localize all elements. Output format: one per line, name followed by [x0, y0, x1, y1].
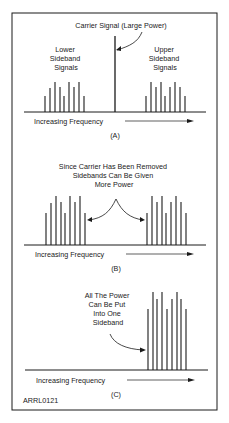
- single-sideband-label: All The Power Can Be Put Into One Sideba…: [85, 291, 132, 327]
- lower-sideband-bars: [45, 82, 84, 112]
- panel-a: Carrier Signal (Large Power) Lower Sideb…: [24, 21, 206, 140]
- power-arrow: [110, 334, 143, 350]
- ssb-spectrum-diagram: Carrier Signal (Large Power) Lower Sideb…: [0, 0, 229, 423]
- panel-c: All The Power Can Be Put Into One Sideba…: [23, 291, 208, 405]
- panel-caption: (A): [110, 131, 120, 140]
- axis-label: Increasing Frequency: [35, 250, 105, 259]
- panel-caption: (B): [111, 264, 121, 273]
- arrowhead-icon: [140, 348, 146, 353]
- figure-id: ARRL0121: [23, 396, 58, 405]
- carrier-label: Carrier Signal (Large Power): [75, 21, 166, 30]
- lower-sideband-label: Lower Sideband Signals: [50, 45, 82, 72]
- power-arrow-left: [89, 199, 116, 220]
- panel-b: Since Carrier Has Been Removed Sidebands…: [24, 162, 206, 273]
- carrier-removed-label: Since Carrier Has Been Removed Sidebands…: [59, 162, 169, 189]
- upper-sideband-bars: [147, 196, 186, 245]
- arrowhead-icon: [87, 217, 92, 222]
- lower-sideband-bars: [46, 196, 85, 245]
- arrowhead-icon: [116, 46, 121, 51]
- arrowhead-icon: [187, 252, 194, 256]
- single-sideband-bars: [148, 292, 186, 370]
- upper-sideband-bars: [146, 82, 185, 112]
- axis-label: Increasing Frequency: [36, 376, 106, 385]
- arrowhead-icon: [188, 378, 195, 382]
- axis-label: Increasing Frequency: [34, 117, 104, 126]
- arrowhead-icon: [187, 119, 194, 123]
- arrowhead-icon: [140, 217, 145, 222]
- upper-sideband-label: Upper Sideband Signals: [149, 45, 181, 72]
- panel-caption: (C): [111, 390, 121, 399]
- power-arrow-right: [116, 199, 143, 220]
